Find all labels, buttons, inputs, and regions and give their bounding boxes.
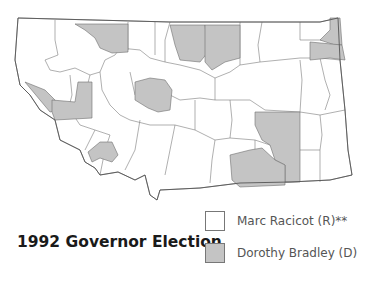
legend-swatch-racicot xyxy=(205,211,225,231)
map-title: 1992 Governor Election xyxy=(17,233,222,251)
legend-label-racicot: Marc Racicot (R)** xyxy=(237,214,347,228)
legend-label-bradley: Dorothy Bradley (D) xyxy=(237,246,357,260)
legend-swatch-bradley xyxy=(205,243,225,263)
